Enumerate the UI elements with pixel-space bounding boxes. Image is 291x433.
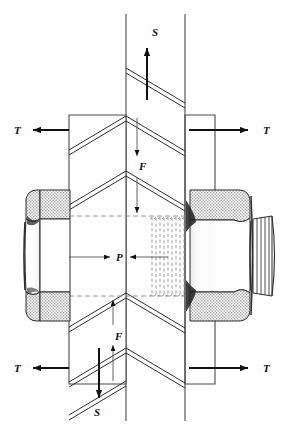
left-plate (69, 115, 126, 384)
threaded-shank-center (150, 216, 190, 296)
shear-bottom-label: S (94, 406, 100, 418)
annotation-tension-top-right: T (189, 124, 271, 136)
annotation-tension-bottom-right: T (189, 362, 271, 374)
tension-bottom-left-label: T (14, 362, 22, 374)
tension-top-right-label: T (263, 124, 271, 136)
hex-bolt-head-left (24, 190, 70, 321)
force-lower-label: F (114, 330, 123, 342)
preload-label: P (116, 251, 123, 263)
hex-nut-right (186, 190, 253, 321)
shear-top-label: S (152, 26, 158, 38)
annotation-tension-bottom-left: T (14, 362, 69, 374)
tension-bottom-right-label: T (263, 362, 271, 374)
annotation-tension-top-left: T (14, 124, 69, 136)
bolted-joint-figure: S S T T T T F (0, 0, 291, 433)
protruding-thread-right (250, 216, 275, 296)
figure-canvas: S S T T T T F (0, 0, 291, 433)
tension-top-left-label: T (14, 124, 22, 136)
force-upper-label: F (138, 160, 147, 172)
